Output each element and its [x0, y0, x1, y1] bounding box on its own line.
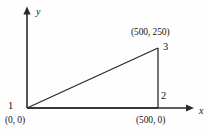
- x-axis-label: x: [199, 106, 203, 116]
- node-label-2: 2: [161, 91, 166, 102]
- edge-3-1: [27, 48, 158, 108]
- node-label-3: 3: [163, 42, 168, 53]
- triangle-element-figure: y x 1 2 3 (0, 0) (500, 0) (500, 250): [0, 0, 210, 132]
- node-coordinate-2: (500, 0): [136, 116, 165, 126]
- y-axis-arrowhead-icon: [23, 7, 30, 15]
- node-coordinate-3: (500, 250): [131, 28, 170, 38]
- triangle-element: [27, 48, 158, 108]
- node-label-1: 1: [8, 101, 13, 112]
- y-axis: [23, 7, 30, 109]
- node-coordinate-1: (0, 0): [5, 116, 25, 126]
- x-axis-arrowhead-icon: [186, 104, 194, 111]
- figure-canvas: [0, 0, 210, 132]
- y-axis-label: y: [36, 7, 40, 17]
